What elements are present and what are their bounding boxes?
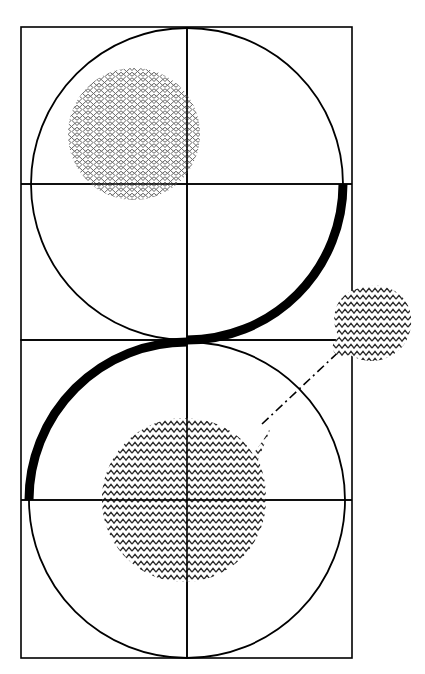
figure-canvas <box>0 0 425 674</box>
geometric-figure <box>0 0 425 674</box>
